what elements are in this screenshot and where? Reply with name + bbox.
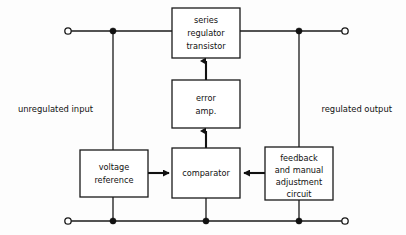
terminal-output-bottom[interactable]: [342, 218, 348, 224]
series-regulator-label-line2: regulator: [187, 28, 225, 38]
terminal-input-bottom[interactable]: [65, 218, 71, 224]
feedback-circuit-label-line4: circuit: [286, 189, 312, 199]
error-amp-label-line1: error: [196, 93, 216, 103]
terminal-output-top[interactable]: [342, 28, 348, 34]
block-diagram-canvas: series regulator transistor error amp. c…: [0, 0, 406, 235]
block-error-amp[interactable]: error amp.: [172, 80, 240, 128]
block-series-regulator-transistor[interactable]: series regulator transistor: [172, 8, 240, 58]
comparator-label-line1: comparator: [182, 168, 230, 178]
error-amp-box[interactable]: [172, 80, 240, 128]
series-regulator-label-line1: series: [194, 15, 218, 25]
regulated-output-label: regulated output: [321, 104, 392, 114]
junction-dot-top-output: [296, 28, 302, 34]
feedback-circuit-label-line3: adjustment: [276, 177, 323, 187]
error-amp-label-line2: amp.: [196, 106, 217, 116]
block-comparator[interactable]: comparator: [172, 148, 240, 198]
block-feedback-circuit[interactable]: feedback and manual adjustment circuit: [265, 147, 333, 200]
voltage-reference-label-line2: reference: [94, 175, 133, 185]
terminal-input-top[interactable]: [65, 28, 71, 34]
junction-dot-bottom-input: [110, 218, 116, 224]
voltage-reference-label-line1: voltage: [99, 162, 130, 172]
voltage-reference-box[interactable]: [80, 150, 148, 197]
junction-dot-bottom-output: [296, 218, 302, 224]
block-voltage-reference[interactable]: voltage reference: [80, 150, 148, 197]
junction-dot-top-input: [110, 28, 116, 34]
feedback-circuit-label-line2: and manual: [275, 165, 324, 175]
junction-dot-bottom-center: [203, 218, 209, 224]
series-regulator-label-line3: transistor: [186, 41, 226, 51]
unregulated-input-label: unregulated input: [18, 104, 94, 114]
schematic-svg: series regulator transistor error amp. c…: [0, 0, 406, 235]
feedback-circuit-label-line1: feedback: [280, 153, 318, 163]
